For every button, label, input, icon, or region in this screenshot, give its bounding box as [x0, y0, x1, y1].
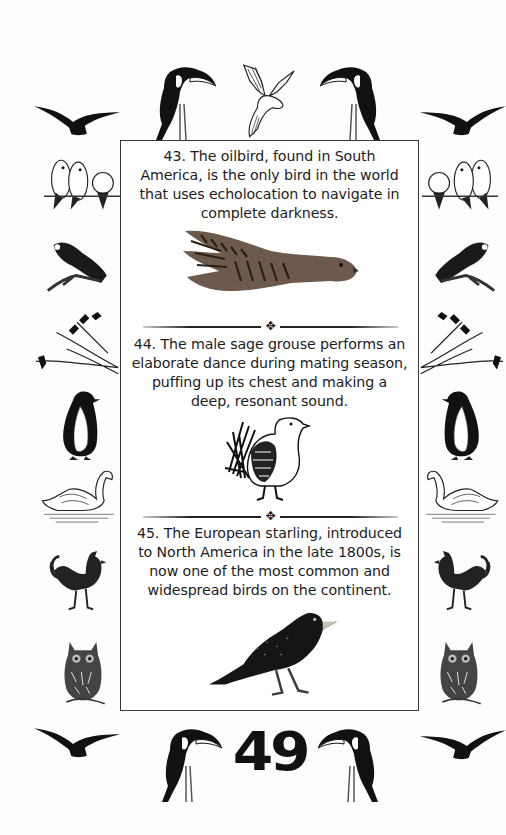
separator-line-right — [280, 326, 398, 328]
sage-grouse-illustration — [219, 411, 319, 503]
dove-icon — [240, 60, 298, 140]
toucan-icon — [314, 724, 394, 804]
parrot-icon — [44, 236, 120, 296]
fact-45-text: 45. The European starling, introduced to… — [121, 524, 418, 600]
rooster-icon — [48, 546, 114, 618]
toucan-icon — [316, 62, 396, 142]
facts-box: 43. The oilbird, found in South America,… — [120, 140, 419, 711]
birds-on-branch-icon — [420, 312, 504, 384]
top-decoration-row — [0, 0, 504, 140]
section-separator: ✥ — [143, 321, 398, 333]
flying-bird-icon — [418, 100, 506, 140]
lovebirds-icon — [44, 154, 120, 212]
penguin-icon — [58, 386, 104, 464]
owl-icon — [434, 632, 484, 712]
toucan-icon — [146, 724, 226, 804]
oilbird-illustration — [181, 221, 361, 301]
swan-icon — [40, 466, 118, 524]
flying-bird-icon — [34, 100, 122, 140]
fact-44-text: 44. The male sage grouse performs an ela… — [121, 335, 418, 411]
fact-43-text: 43. The oilbird, found in South America,… — [121, 147, 418, 223]
parrot-icon — [422, 236, 498, 296]
left-decoration-column — [0, 140, 120, 720]
right-decoration-column — [420, 140, 504, 720]
separator-line-left — [143, 516, 261, 518]
section-separator: ✥ — [143, 511, 398, 523]
separator-line-right — [280, 516, 398, 518]
flying-bird-icon — [34, 722, 122, 762]
birds-on-branch-icon — [34, 312, 120, 384]
ornament-cross-icon: ✥ — [265, 509, 275, 523]
swan-icon — [422, 466, 500, 524]
page-number: 49 — [218, 722, 322, 782]
rooster-icon — [426, 546, 492, 618]
ornament-cross-icon: ✥ — [265, 319, 275, 333]
lovebirds-icon — [422, 154, 498, 212]
flying-bird-icon — [418, 724, 506, 764]
penguin-icon — [438, 386, 484, 464]
starling-illustration — [205, 607, 337, 699]
separator-line-left — [143, 326, 261, 328]
owl-icon — [58, 632, 108, 712]
toucan-icon — [140, 62, 220, 142]
